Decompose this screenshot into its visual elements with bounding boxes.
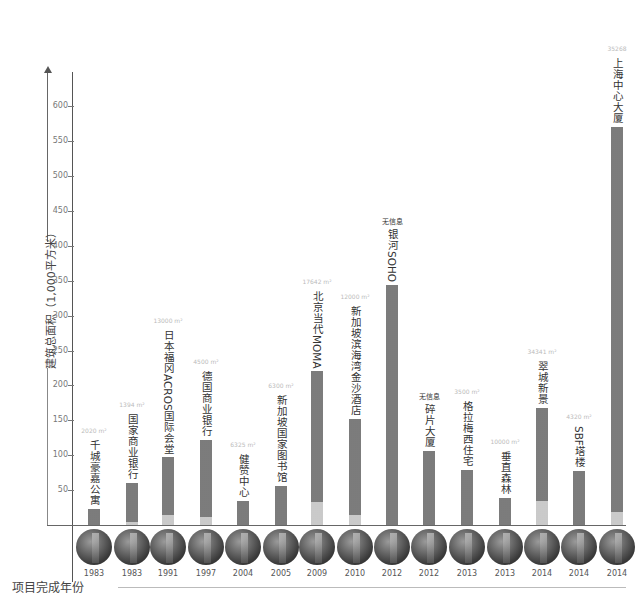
bar-area-annotation: 34341 m² — [527, 348, 556, 355]
y-axis-arrow-lower-line — [47, 368, 48, 525]
building-thumbnail[interactable] — [561, 529, 597, 565]
y-tick-mark — [68, 420, 74, 421]
bar-area-annotation: 4500 m² — [193, 358, 218, 365]
y-tick-label: 300 — [40, 311, 68, 320]
bar-lower-segment — [162, 515, 174, 525]
bar-label: 新加坡国家图书馆 — [274, 395, 289, 483]
bar-lower-segment — [311, 502, 323, 525]
building-thumbnail[interactable] — [263, 529, 299, 565]
bar[interactable] — [536, 408, 548, 525]
y-tick-mark — [68, 246, 74, 247]
bar-upper-segment — [461, 470, 473, 525]
bar-upper-segment — [349, 419, 361, 515]
building-thumbnail[interactable] — [299, 529, 335, 565]
year-label: 2012 — [409, 569, 449, 578]
bar-upper-segment — [536, 408, 548, 502]
bar[interactable] — [461, 470, 473, 525]
y-axis-arrow-icon — [44, 66, 52, 73]
bar-area-annotation: 17642 m² — [302, 278, 331, 285]
y-tick-label: 600 — [40, 101, 68, 110]
y-tick-mark — [68, 281, 74, 282]
year-label: 2012 — [372, 569, 412, 578]
bar[interactable] — [126, 483, 138, 525]
year-label: 2013 — [447, 569, 487, 578]
y-tick-label: 450 — [40, 206, 68, 215]
bar-label: 银河SOHO — [385, 229, 400, 282]
bar-label: 格拉梅西住宅 — [460, 401, 475, 467]
bar-area-annotation: 35268 — [607, 45, 626, 52]
bar-area-annotation: 3500 m² — [454, 388, 479, 395]
building-thumbnail[interactable] — [188, 529, 224, 565]
y-tick-mark — [68, 211, 74, 212]
bar[interactable] — [423, 451, 435, 525]
y-tick-mark — [68, 490, 74, 491]
y-tick-mark — [68, 316, 74, 317]
bar[interactable] — [88, 509, 100, 525]
bar[interactable] — [499, 498, 511, 525]
bar-label: 德国商业银行 — [199, 371, 214, 437]
bar-label: 健赞中心 — [236, 454, 251, 498]
y-tick-mark — [68, 351, 74, 352]
y-tick-label: 350 — [40, 276, 68, 285]
y-tick-label: 550 — [40, 136, 68, 145]
y-tick-label: 50 — [40, 485, 68, 494]
bar-upper-segment — [162, 457, 174, 515]
year-label: 2014 — [559, 569, 599, 578]
bar[interactable] — [200, 440, 212, 525]
bar-area-annotation: 无信息 — [419, 391, 440, 401]
year-label: 1991 — [148, 569, 188, 578]
building-thumbnail[interactable] — [225, 529, 261, 565]
y-tick-label: 150 — [40, 415, 68, 424]
y-tick-label: 400 — [40, 241, 68, 250]
year-label: 1997 — [186, 569, 226, 578]
building-thumbnail[interactable] — [337, 529, 373, 565]
bar[interactable] — [237, 501, 249, 525]
x-axis-title: 项目完成年份 — [12, 578, 84, 595]
x-axis-baseline — [47, 525, 626, 526]
bar[interactable] — [386, 285, 398, 525]
building-thumbnail[interactable] — [76, 529, 112, 565]
bar[interactable] — [311, 371, 323, 525]
bar[interactable] — [162, 457, 174, 525]
building-thumbnail[interactable] — [114, 529, 150, 565]
bar-label: 上海中心大厦 — [610, 58, 625, 124]
year-label: 1983 — [112, 569, 152, 578]
bar-lower-segment — [611, 512, 623, 525]
bar[interactable] — [573, 471, 585, 525]
bar-upper-segment — [573, 471, 585, 525]
year-label: 1983 — [74, 569, 114, 578]
building-thumbnail[interactable] — [449, 529, 485, 565]
bar-upper-segment — [611, 127, 623, 512]
bar[interactable] — [349, 419, 361, 525]
bar-upper-segment — [126, 483, 138, 522]
bar-lower-segment — [200, 517, 212, 525]
bar[interactable] — [275, 486, 287, 525]
building-thumbnail[interactable] — [599, 529, 635, 565]
y-tick-mark — [68, 385, 74, 386]
bar-area-annotation: 13000 m² — [153, 317, 182, 324]
bar-lower-segment — [349, 515, 361, 525]
y-axis-line — [72, 72, 73, 582]
building-thumbnail[interactable] — [411, 529, 447, 565]
bar-area-annotation: 4320 m² — [566, 413, 591, 420]
bar-upper-segment — [311, 371, 323, 502]
bar-upper-segment — [237, 501, 249, 525]
bar-label: 垂直森林 — [498, 451, 513, 495]
bar[interactable] — [611, 127, 623, 525]
x-axis-title-line — [118, 587, 626, 588]
bar-lower-segment — [536, 501, 548, 525]
year-label: 2009 — [297, 569, 337, 578]
y-axis-title: 建筑总面积（1,000平方米） — [42, 208, 58, 388]
y-tick-label: 500 — [40, 171, 68, 180]
y-tick-mark — [68, 106, 74, 107]
building-thumbnail[interactable] — [150, 529, 186, 565]
y-tick-mark — [68, 176, 74, 177]
bar-area-annotation: 12000 m² — [340, 293, 369, 300]
building-thumbnail[interactable] — [374, 529, 410, 565]
building-thumbnail[interactable] — [524, 529, 560, 565]
building-thumbnail[interactable] — [487, 529, 523, 565]
bar-label: 北京当代MOMA — [310, 291, 325, 369]
bar-label: 碎片大厦 — [422, 404, 437, 448]
y-tick-label: 200 — [40, 380, 68, 389]
bar-label: 国家商业银行 — [125, 414, 140, 480]
